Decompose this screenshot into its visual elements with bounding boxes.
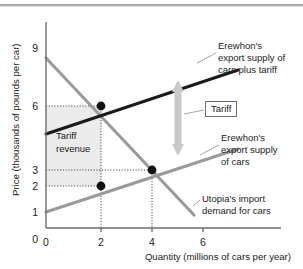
- supply-label-line1: Erewhon's: [221, 132, 265, 143]
- demand-label-line2: demand for cars: [202, 205, 271, 216]
- data-point-free-trade-quantity: [148, 166, 157, 175]
- demand-label-line1: Utopia's import: [202, 193, 265, 204]
- y-tick-label-2: 2: [32, 180, 38, 192]
- y-tick-label-0: 0: [32, 233, 38, 245]
- supply-plus-tariff-label-line2: export supply of: [218, 52, 285, 63]
- data-point-tariff-equilibrium: [97, 102, 106, 111]
- tariff-gap-arrow-icon: [172, 80, 184, 156]
- supply-plus-tariff-label-line1: Erewhon's: [218, 40, 262, 51]
- x-tick-label-4: 4: [149, 236, 155, 248]
- data-point-world-price: [97, 182, 106, 191]
- y-tick-label-6: 6: [32, 100, 38, 112]
- x-axis-title: Quantity (millions of cars per year): [145, 251, 291, 262]
- chart-canvas: 9 6 3 2 1 0 0 2 4 6 Price (thousands of …: [0, 0, 303, 269]
- y-tick-label-1: 1: [32, 206, 38, 218]
- x-tick-label-2: 2: [98, 236, 104, 248]
- tariff-revenue-label-line2: revenue: [56, 143, 90, 154]
- leader-tariff-box: [184, 110, 204, 114]
- tariff-chart-figure: 9 6 3 2 1 0 0 2 4 6 Price (thousands of …: [0, 0, 303, 269]
- y-axis-title: Price (thousands of pounds per car): [10, 43, 21, 196]
- leader-demand: [193, 200, 200, 206]
- tariff-revenue-label-line1: Tariff: [56, 130, 77, 141]
- leader-supply-plus-tariff: [197, 53, 216, 63]
- y-tick-label-9: 9: [32, 42, 38, 54]
- supply-plus-tariff-label-line3: cars plus tariff: [218, 64, 277, 75]
- supply-label-line2: export supply: [221, 144, 278, 155]
- x-tick-label-0: 0: [43, 236, 49, 248]
- x-tick-label-6: 6: [200, 236, 206, 248]
- y-tick-label-3: 3: [32, 164, 38, 176]
- leader-supply: [200, 145, 219, 155]
- tariff-gap-label-box: Tariff: [205, 101, 237, 117]
- supply-label-line3: of cars: [221, 156, 250, 167]
